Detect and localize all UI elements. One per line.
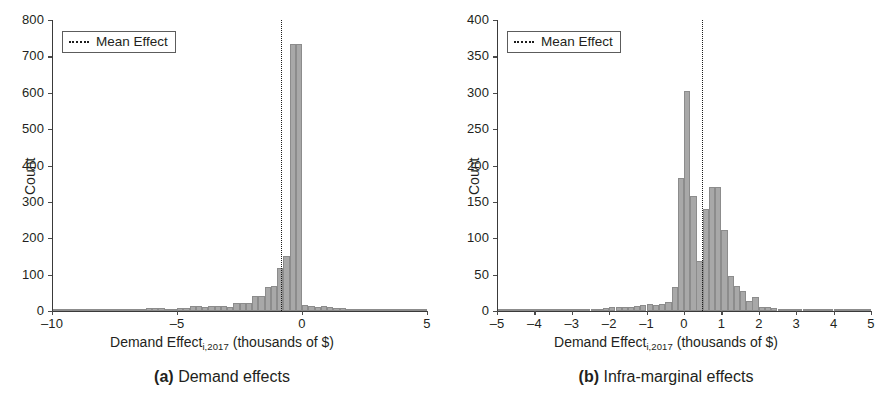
histogram-bar <box>703 209 709 311</box>
x-tick-mark <box>721 311 722 315</box>
histogram-bar <box>665 302 671 311</box>
histogram-bar <box>678 178 684 311</box>
y-tick-mark <box>48 56 52 57</box>
y-tick-mark <box>493 56 497 57</box>
x-tick-mark <box>497 311 498 315</box>
mean-effect-line-swatch-icon <box>514 41 534 43</box>
x-axis-title-a: Demand Effecti,2017 (thousands of $) <box>0 334 444 352</box>
x-tick-mark <box>796 311 797 315</box>
x-tick-label: –5 <box>157 316 197 331</box>
x-tick-label: 5 <box>851 316 888 331</box>
x-axis-title-sub-b: i,2017 <box>646 341 672 352</box>
y-tick-label: 200 <box>449 158 489 173</box>
y-tick-mark <box>48 238 52 239</box>
x-tick-mark <box>177 311 178 315</box>
y-tick-mark <box>493 93 497 94</box>
y-tick-label: 400 <box>4 158 44 173</box>
y-tick-label: 300 <box>449 85 489 100</box>
panel-b-infra-marginal-effects: Count 050100150200250300350400 –5–4–3–2–… <box>444 0 888 414</box>
x-axis-title-tail-a: (thousands of $) <box>229 334 334 350</box>
x-axis-title-sub-a: i,2017 <box>202 341 228 352</box>
x-tick-mark <box>871 311 872 315</box>
y-tick-label: 600 <box>4 85 44 100</box>
y-axis-a <box>52 20 53 312</box>
caption-tag-b: (b) <box>579 368 599 385</box>
histogram-bar <box>715 187 721 311</box>
x-tick-label: –5 <box>477 316 517 331</box>
x-tick-label: –1 <box>627 316 667 331</box>
x-tick-label: 1 <box>701 316 741 331</box>
legend-b[interactable]: Mean Effect <box>507 31 621 53</box>
histogram-bar <box>740 291 746 311</box>
y-tick-mark <box>48 166 52 167</box>
y-tick-mark <box>48 129 52 130</box>
x-tick-label: 0 <box>282 316 322 331</box>
figure-two-panel-histograms: Count 0100200300400500600700800 –10–505 … <box>0 0 888 414</box>
y-tick-label: 150 <box>449 194 489 209</box>
mean-effect-line-a <box>281 20 282 311</box>
y-tick-mark <box>493 275 497 276</box>
histogram-bars-b <box>497 20 871 311</box>
caption-b: (b) Infra-marginal effects <box>444 368 888 386</box>
y-tick-mark <box>493 129 497 130</box>
y-tick-mark <box>493 166 497 167</box>
y-tick-label: 800 <box>4 12 44 27</box>
x-tick-mark <box>427 311 428 315</box>
y-tick-mark <box>493 238 497 239</box>
y-tick-label: 100 <box>4 267 44 282</box>
caption-tag-a: (a) <box>154 368 174 385</box>
histogram-bars-a <box>52 20 427 311</box>
x-tick-label: 2 <box>739 316 779 331</box>
x-tick-label: 5 <box>407 316 447 331</box>
legend-label-mean-effect-b: Mean Effect <box>541 35 613 49</box>
legend-label-mean-effect-a: Mean Effect <box>96 35 168 49</box>
plot-area-b <box>497 20 871 311</box>
legend-a[interactable]: Mean Effect <box>62 31 176 53</box>
x-tick-mark <box>684 311 685 315</box>
x-axis-title-b: Demand Effecti,2017 (thousands of $) <box>444 334 888 352</box>
y-tick-mark <box>48 275 52 276</box>
x-tick-label: 4 <box>814 316 854 331</box>
x-tick-label: –2 <box>589 316 629 331</box>
x-tick-label: 3 <box>776 316 816 331</box>
y-tick-label: 400 <box>449 12 489 27</box>
y-axis-b <box>497 20 498 312</box>
histogram-bar <box>734 286 740 311</box>
y-tick-label: 300 <box>4 194 44 209</box>
x-tick-mark <box>572 311 573 315</box>
x-tick-mark <box>302 311 303 315</box>
x-tick-mark <box>647 311 648 315</box>
histogram-bar <box>721 230 727 311</box>
x-axis-title-main-b: Demand Effect <box>554 334 646 350</box>
x-axis-title-tail-b: (thousands of $) <box>673 334 778 350</box>
y-tick-label: 250 <box>449 121 489 136</box>
y-tick-label: 500 <box>4 121 44 136</box>
y-tick-label: 700 <box>4 48 44 63</box>
mean-effect-line-swatch-icon <box>69 41 89 43</box>
mean-effect-line-b <box>702 20 703 311</box>
y-tick-label: 350 <box>449 48 489 63</box>
y-tick-mark <box>493 202 497 203</box>
x-axis-a <box>52 311 428 312</box>
caption-a: (a) Demand effects <box>0 368 444 386</box>
x-axis-title-main-a: Demand Effect <box>110 334 202 350</box>
y-tick-mark <box>48 202 52 203</box>
y-tick-mark <box>493 20 497 21</box>
caption-text-b: Infra-marginal effects <box>603 368 753 385</box>
y-tick-label: 50 <box>449 267 489 282</box>
y-tick-label: 200 <box>4 230 44 245</box>
x-tick-label: –3 <box>552 316 592 331</box>
y-tick-mark <box>48 20 52 21</box>
x-tick-mark <box>52 311 53 315</box>
x-tick-label: 0 <box>664 316 704 331</box>
panel-a-demand-effects: Count 0100200300400500600700800 –10–505 … <box>0 0 444 414</box>
x-tick-label: –10 <box>32 316 72 331</box>
y-tick-label: 100 <box>449 230 489 245</box>
x-tick-mark <box>609 311 610 315</box>
x-tick-label: –4 <box>514 316 554 331</box>
histogram-bar <box>684 91 690 311</box>
histogram-bar <box>752 297 758 311</box>
x-tick-mark <box>759 311 760 315</box>
plot-area-a <box>52 20 427 311</box>
x-tick-mark <box>834 311 835 315</box>
